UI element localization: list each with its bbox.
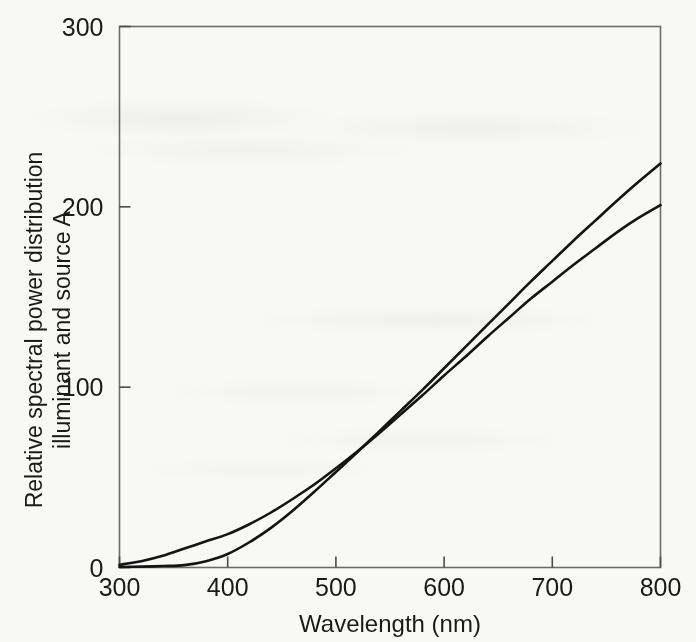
x-tick-label: 400 — [207, 573, 249, 601]
spectral-power-distribution-chart: 0100200300 300400500600700800 Wavelength… — [0, 0, 696, 642]
x-tick-label: 600 — [423, 573, 465, 601]
x-tick-label: 700 — [531, 573, 573, 601]
y-axis-title-line2: illuminant and source A — [49, 210, 75, 448]
x-tick-label: 800 — [640, 573, 682, 601]
y-tick-label: 300 — [62, 13, 104, 41]
x-axis-title: Wavelength (nm) — [299, 610, 481, 637]
x-tick-label: 500 — [315, 573, 357, 601]
chart-figure: 0100200300 300400500600700800 Wavelength… — [0, 0, 696, 642]
x-tick-label: 300 — [99, 573, 141, 601]
chart-background — [0, 0, 696, 642]
y-axis-title-line1: Relative spectral power distribution — [21, 152, 47, 509]
